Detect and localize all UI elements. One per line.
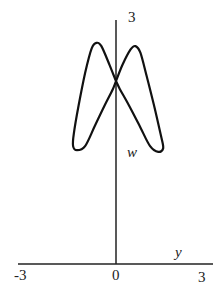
- y-axis-top-tick: 3: [128, 10, 136, 25]
- figure-eight-curve: [73, 43, 163, 152]
- x-tick-left: -3: [14, 268, 27, 283]
- y-axis-label: w: [127, 145, 137, 160]
- x-tick-right: 3: [198, 270, 206, 285]
- x-axis-label: y: [175, 245, 182, 260]
- chart-canvas: [0, 0, 224, 298]
- x-tick-zero: 0: [112, 268, 120, 283]
